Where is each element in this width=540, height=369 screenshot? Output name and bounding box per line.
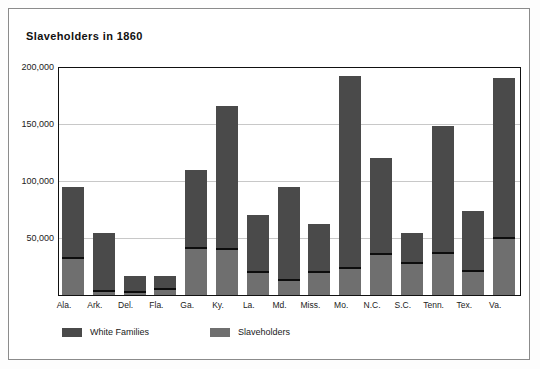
bar-segment-slaveholders[interactable] — [154, 288, 176, 295]
bar-group[interactable] — [62, 187, 84, 295]
bar-group[interactable] — [370, 158, 392, 295]
y-axis-tick-label: 200,000 — [2, 62, 54, 72]
bar-group[interactable] — [93, 233, 115, 295]
bar-segment-slaveholders[interactable] — [370, 253, 392, 295]
y-axis-tick-label: 150,000 — [2, 119, 54, 129]
legend-swatch — [62, 328, 82, 337]
y-axis-tick-label: 50,000 — [2, 233, 54, 243]
bar-segment-slaveholders[interactable] — [432, 252, 454, 295]
x-axis-tick-label: Va. — [475, 300, 515, 310]
bar-segment-slaveholders[interactable] — [62, 257, 84, 295]
bar-group[interactable] — [124, 276, 146, 295]
bar-group[interactable] — [247, 215, 269, 295]
bar-segment-slaveholders[interactable] — [247, 271, 269, 295]
y-axis-tick-label: 100,000 — [2, 176, 54, 186]
legend-label: White Families — [90, 327, 149, 337]
bar-segment-slaveholders[interactable] — [401, 262, 423, 295]
bar-segment-white-families[interactable] — [93, 233, 115, 295]
bar-group[interactable] — [185, 170, 207, 295]
bar-group[interactable] — [401, 233, 423, 295]
bar-segment-slaveholders[interactable] — [462, 270, 484, 295]
bar-group[interactable] — [493, 78, 515, 295]
bar-segment-slaveholders[interactable] — [308, 271, 330, 295]
bar-segment-slaveholders[interactable] — [339, 267, 361, 296]
bar-segment-slaveholders[interactable] — [216, 248, 238, 295]
bar-segment-white-families[interactable] — [339, 76, 361, 295]
y-axis-labels: 200,000150,000100,00050,000 — [0, 0, 54, 369]
bar-group[interactable] — [308, 224, 330, 295]
bar-group[interactable] — [339, 76, 361, 295]
bar-segment-slaveholders[interactable] — [93, 290, 115, 295]
plot-area — [58, 67, 520, 295]
bar-segment-slaveholders[interactable] — [185, 247, 207, 295]
bar-segment-slaveholders[interactable] — [493, 237, 515, 295]
x-axis-line — [58, 295, 521, 296]
bar-group[interactable] — [216, 106, 238, 295]
bar-group[interactable] — [154, 276, 176, 295]
bar-group[interactable] — [278, 187, 300, 295]
bar-segment-slaveholders[interactable] — [124, 291, 146, 295]
plot-axis-right — [520, 67, 521, 296]
bar-group[interactable] — [432, 126, 454, 295]
legend-item[interactable]: White Families — [62, 327, 149, 337]
bar-group[interactable] — [462, 211, 484, 295]
legend-item[interactable]: Slaveholders — [210, 327, 290, 337]
legend-label: Slaveholders — [238, 327, 290, 337]
legend-swatch — [210, 328, 230, 337]
bar-segment-slaveholders[interactable] — [278, 279, 300, 295]
figure: Slaveholders in 1860 200,000150,000100,0… — [0, 0, 540, 369]
